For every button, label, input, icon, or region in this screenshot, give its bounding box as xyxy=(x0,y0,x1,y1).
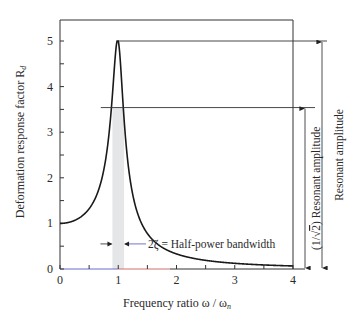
y-tick-label: 2 xyxy=(47,171,53,185)
resonant-amplitude-label: Resonant amplitude xyxy=(333,109,346,201)
plot-frame xyxy=(60,20,305,269)
response-curve xyxy=(60,41,293,266)
x-tick-label: 4 xyxy=(290,273,296,287)
annotations: Resonant amplitude(1/√2) Resonant amplit… xyxy=(100,41,346,268)
x-tick-label: 0 xyxy=(57,273,63,287)
y-tick-label: 0 xyxy=(47,262,53,276)
y-tick-label: 3 xyxy=(47,125,53,139)
bandwidth-arrowhead-right xyxy=(124,241,129,246)
x-tick-label: 2 xyxy=(174,273,180,287)
half-power-band xyxy=(112,108,124,269)
y-axis-label: Deformation response factor Rd xyxy=(13,65,28,218)
y-tick-label: 1 xyxy=(47,216,53,230)
label-prefix: (1/ xyxy=(310,236,323,250)
label-suffix: ) Resonant amplitude xyxy=(310,127,323,225)
y-tick-label: 5 xyxy=(47,34,53,48)
x-tick-label: 3 xyxy=(232,273,238,287)
axis-ticks xyxy=(60,41,293,269)
y-tick-label: 4 xyxy=(47,80,53,94)
half-power-amplitude-label: (1/√2) Resonant amplitude xyxy=(310,127,323,250)
chart: 01234012345 Resonant amplitude(1/√2) Res… xyxy=(0,0,359,325)
x-axis-label: Frequency ratio ω / ωn xyxy=(123,296,231,311)
x-tick-label: 1 xyxy=(115,273,121,287)
bandwidth-arrowhead-left xyxy=(107,241,112,246)
bandwidth-label: 2ζ = Half-power bandwidth xyxy=(148,238,275,251)
